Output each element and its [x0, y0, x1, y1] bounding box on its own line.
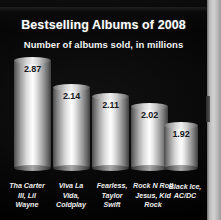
x-tick-label: Viva La Vida, Coldplay	[48, 181, 94, 210]
bar-bottom-ellipse	[14, 165, 51, 171]
bar-cylinder: 2.02	[131, 106, 168, 168]
x-tick-line: Viva La	[48, 181, 94, 191]
bar-value-label: 2.87	[14, 64, 51, 74]
x-tick-line: Vida,	[48, 191, 94, 201]
bar-value-label: 1.92	[164, 129, 198, 139]
bar-top-ellipse	[164, 122, 198, 129]
x-tick-line: Rock	[128, 200, 178, 210]
bar-top-ellipse	[14, 57, 51, 64]
x-tick-line: AC/DC	[163, 191, 207, 201]
x-tick-line: Wayne	[2, 200, 52, 210]
bar-group: 2.14	[53, 87, 90, 168]
bar-cylinder: 2.87	[14, 60, 51, 168]
x-tick-label: Black Ice, AC/DC	[163, 182, 207, 201]
bar-group: 2.02	[131, 106, 168, 168]
bar-top-ellipse	[131, 103, 168, 110]
plot-area: 2.87 2.14 2.11 2.02	[0, 0, 207, 220]
bar-cylinder: 1.92	[164, 125, 198, 168]
bar-cylinder: 2.14	[53, 87, 90, 168]
bar-bottom-ellipse	[53, 165, 90, 171]
x-tick-label: Tha Carter III, Lil Wayne	[2, 181, 52, 210]
bar-group: 2.87	[14, 60, 51, 168]
bar-value-label: 2.02	[131, 110, 168, 120]
bar-bottom-ellipse	[92, 165, 129, 171]
bar-top-ellipse	[92, 93, 129, 100]
bar-group: 1.92	[164, 125, 198, 168]
chart-container: Bestselling Albums of 2008 Number of alb…	[0, 0, 221, 220]
bar-bottom-ellipse	[131, 165, 168, 171]
bar-top-ellipse	[53, 84, 90, 91]
bar-bottom-ellipse	[164, 165, 198, 171]
x-tick-line: Black Ice,	[163, 182, 207, 192]
x-tick-line: Coldplay	[48, 200, 94, 210]
bar-cylinder: 2.11	[92, 96, 129, 168]
page-edge-notch	[206, 96, 210, 122]
x-tick-line: Tha Carter	[2, 181, 52, 191]
bar-value-label: 2.14	[53, 91, 90, 101]
bar-value-label: 2.11	[92, 100, 129, 110]
x-tick-line: III, Lil	[2, 191, 52, 201]
bar-group: 2.11	[92, 96, 129, 168]
